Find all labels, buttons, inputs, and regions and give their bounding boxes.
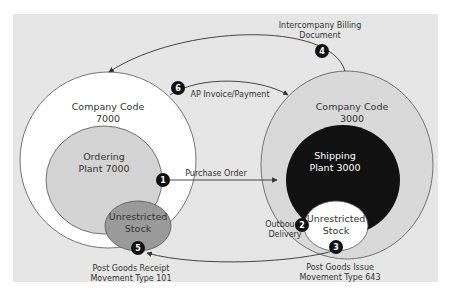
ordering-plant-label-2: Plant 7000 bbox=[78, 163, 129, 174]
step-3-label-1: Post Goods Issue bbox=[306, 263, 374, 272]
step-5-label-2: Movement Type 101 bbox=[90, 274, 171, 283]
shipping-plant-label-1: Shipping bbox=[314, 150, 355, 161]
step-6-number: 6 bbox=[175, 84, 181, 93]
stock-right-label-2: Stock bbox=[323, 225, 350, 236]
step-6-badge: 6 bbox=[171, 81, 185, 95]
step-2-label-2: Delivery bbox=[268, 230, 301, 239]
shipping-plant-label-2: Plant 3000 bbox=[309, 162, 360, 173]
step-2-badge: 2 bbox=[295, 218, 309, 232]
stock-right-label-1: Unrestricted bbox=[307, 213, 366, 224]
company-code-3000-label-2: 3000 bbox=[340, 113, 364, 124]
step-1-number: 1 bbox=[160, 176, 166, 185]
step-5-number: 5 bbox=[135, 244, 141, 253]
step-1-badge: 1 bbox=[156, 173, 170, 187]
step-2-number: 2 bbox=[299, 221, 305, 230]
step-4-label-1: Intercompany Billing bbox=[279, 21, 362, 30]
step-3-number: 3 bbox=[333, 243, 339, 252]
step-4-label-2: Document bbox=[299, 31, 340, 40]
company-code-3000-label-1: Company Code bbox=[316, 101, 389, 112]
step-5-badge: 5 bbox=[131, 241, 145, 255]
step-5-label-1: Post Goods Receipt bbox=[93, 264, 170, 273]
stock-left-label-1: Unrestricted bbox=[109, 211, 168, 222]
company-code-7000-label-1: Company Code bbox=[72, 101, 145, 112]
intercompany-stock-transfer-diagram: Company Code 7000 Ordering Plant 7000 Un… bbox=[0, 0, 454, 296]
company-code-7000-label-2: 7000 bbox=[96, 113, 120, 124]
step-6-label: AP Invoice/Payment bbox=[190, 90, 269, 99]
step-4-number: 4 bbox=[319, 47, 325, 56]
step-1-label: Purchase Order bbox=[185, 169, 247, 178]
step-4-badge: 4 bbox=[315, 44, 329, 58]
stock-left-label-2: Stock bbox=[125, 223, 152, 234]
step-3-label-2: Movement Type 643 bbox=[299, 273, 380, 282]
ordering-plant-label-1: Ordering bbox=[83, 151, 125, 162]
step-3-badge: 3 bbox=[329, 240, 343, 254]
